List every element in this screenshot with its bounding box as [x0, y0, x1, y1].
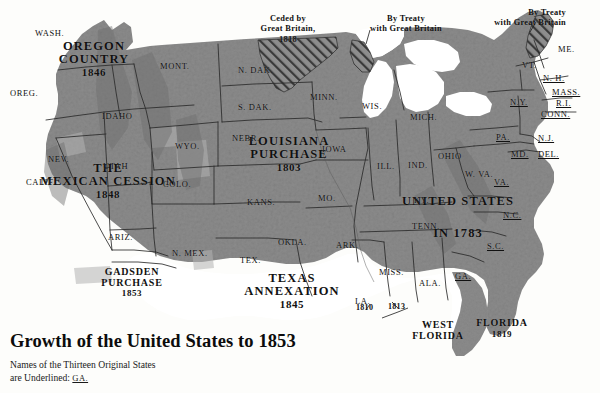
state-label-del: DEL. [538, 150, 559, 159]
state-label-wyo: WYO. [175, 142, 200, 151]
state-label-mont: MONT. [160, 62, 190, 71]
state-label-sc: S.C. [487, 242, 504, 251]
page-title: Growth of the United States to 1853 [10, 331, 296, 352]
state-label-ndak: N. DAK. [238, 66, 273, 75]
state-label-ariz: ARIZ. [108, 233, 133, 242]
treaty-lakes-line2: with Great Britain [370, 24, 442, 33]
state-label-minn: MINN. [310, 93, 338, 102]
state-label-ri: R.I. [556, 99, 571, 108]
state-label-ill: ILL. [377, 162, 395, 171]
west-florida-date-1813: 1813 [388, 303, 405, 311]
state-label-ky: KY. [414, 196, 429, 205]
territory-label-texas-annexation: TEXAS ANNEXATION 1845 [232, 272, 352, 311]
state-label-colo: COLO. [163, 180, 191, 189]
florida-line1: FLORIDA [462, 318, 542, 329]
state-label-la: LA. [355, 297, 370, 306]
state-label-vt: VT. [522, 61, 537, 70]
territory-label-gadsden-purchase: GADSDEN PURCHASE 1853 [78, 267, 186, 298]
treaty-maine-line1: By Treaty [528, 8, 566, 17]
legend: Names of the Thirteen Original States ar… [10, 359, 296, 384]
legend-line-2-prefix: are Underlined: [10, 372, 70, 383]
ceded-year: 1818 [279, 35, 297, 44]
gadsden-line1: GADSDEN [78, 267, 186, 278]
state-label-kans: KANS. [247, 198, 275, 207]
treaty-lakes-line1: By Treaty [387, 14, 425, 23]
treaty-maine-line2: with Great Britain [494, 18, 566, 27]
louisiana-year: 1803 [228, 162, 350, 174]
annotation-treaty-great-britain-lakes: By Treaty with Great Britain [354, 14, 458, 35]
state-label-tex: TEX. [240, 256, 261, 265]
title-block: Growth of the United States to 1853 Name… [10, 331, 296, 384]
state-label-wash: WASH. [35, 29, 64, 38]
state-label-wva: W. VA. [465, 170, 493, 179]
state-label-ala: ALA. [419, 279, 441, 288]
state-label-md: MD. [511, 150, 529, 159]
gadsden-year: 1853 [78, 289, 186, 298]
state-label-pa: PA. [496, 133, 510, 142]
state-label-idaho: IDAHO [102, 112, 132, 121]
state-label-ohio: OHIO [438, 152, 462, 161]
state-label-conn: CONN. [541, 110, 570, 119]
mexican-cession-year: 1848 [18, 189, 198, 201]
state-label-ga: GA. [455, 272, 471, 281]
state-label-okla: OKLA. [278, 238, 307, 247]
state-label-wis: WIS. [362, 102, 382, 111]
historical-map: OREGON COUNTRY 1846 THE MEXICAN CESSION … [0, 0, 600, 393]
state-label-utah: UTAH [103, 162, 128, 171]
state-label-nc: N.C. [503, 211, 521, 220]
state-label-nh: N. H. [543, 74, 565, 83]
florida-year: 1819 [462, 330, 542, 339]
texas-year: 1845 [232, 299, 352, 311]
legend-line-1: Names of the Thirteen Original States [10, 359, 296, 372]
annotation-treaty-great-britain-maine: By Treaty with Great Britain [456, 8, 566, 29]
annotation-ceded-by-great-britain-1818: Ceded by Great Britain, 1818 [240, 14, 336, 45]
state-label-iowa: IOWA [322, 145, 347, 154]
state-label-oreg: OREG. [10, 89, 38, 98]
territory-label-florida: FLORIDA 1819 [462, 318, 542, 339]
legend-underline-example: GA. [72, 373, 88, 383]
state-label-mass: MASS. [552, 88, 580, 97]
state-label-nebr: NEBR. [232, 134, 260, 143]
gadsden-line2: PURCHASE [78, 278, 186, 289]
state-label-ny: N.Y. [510, 98, 528, 107]
oregon-country-year: 1846 [34, 67, 154, 79]
state-label-ind: IND. [408, 161, 428, 170]
legend-line-2: are Underlined: GA. [10, 372, 296, 385]
oregon-country-line2: COUNTRY [34, 53, 154, 66]
state-label-miss: MISS. [379, 268, 404, 277]
state-label-mich: MICH. [410, 113, 437, 122]
state-label-nj: N.J. [538, 134, 554, 143]
state-label-nmex: N. MEX. [172, 249, 208, 258]
state-label-calif: CALIF. [26, 178, 56, 187]
state-label-tenn: TENN. [412, 222, 440, 231]
territory-label-oregon-country: OREGON COUNTRY 1846 [34, 40, 154, 79]
state-label-ark: ARK. [336, 241, 358, 250]
state-label-me: ME. [558, 45, 575, 54]
ceded-line2: Great Britain, [261, 24, 316, 33]
ceded-line1: Ceded by [270, 14, 306, 23]
state-label-nev: NEV. [48, 155, 69, 164]
texas-line2: ANNEXATION [232, 285, 352, 298]
state-label-va: VA. [494, 178, 509, 187]
state-label-sdak: S. DAK. [238, 103, 272, 112]
state-label-mo: MO. [318, 194, 336, 203]
